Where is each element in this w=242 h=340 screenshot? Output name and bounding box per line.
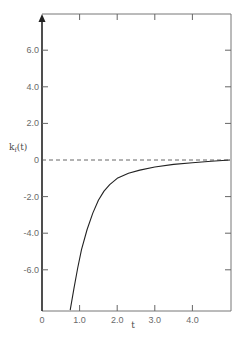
x-tick-label: 4.0 xyxy=(186,315,199,325)
series-line xyxy=(70,160,230,310)
chart: 01.02.03.04.06.04.02.00-2.0-4.0-6.0 t kf… xyxy=(0,0,242,340)
y-tick-label: 0 xyxy=(34,155,39,165)
x-tick-label: 1.0 xyxy=(73,315,86,325)
data-series xyxy=(70,160,230,310)
x-tick-label: 2.0 xyxy=(111,315,124,325)
y-axis-arrow-icon xyxy=(39,14,46,22)
x-tick-label: 0 xyxy=(39,315,44,325)
axis-ticks xyxy=(42,14,231,311)
tick-labels: 01.02.03.04.06.04.02.00-2.0-4.0-6.0 xyxy=(23,45,198,325)
x-axis-label: t xyxy=(131,320,135,330)
y-tick-label: -2.0 xyxy=(23,192,39,202)
y-tick-label: 4.0 xyxy=(26,82,39,92)
x-tick-label: 3.0 xyxy=(149,315,162,325)
y-tick-label: -6.0 xyxy=(23,265,39,275)
y-axis-label: kf(t) xyxy=(9,142,27,153)
y-tick-label: -4.0 xyxy=(23,228,39,238)
y-tick-label: 6.0 xyxy=(26,45,39,55)
y-tick-label: 2.0 xyxy=(26,118,39,128)
